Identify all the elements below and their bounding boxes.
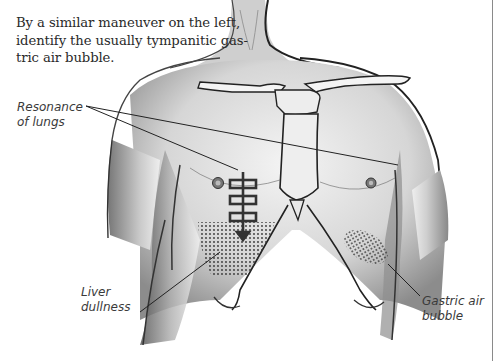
label-lungs-line-2: of lungs [17,115,83,130]
label-liver-dullness: Liver dullness [81,285,130,315]
liver-dullness-area [198,222,275,276]
label-lungs-line-1: Resonance [17,100,83,115]
caption-line-1: By a similar maneuver on the left, [16,14,266,32]
label-gastric-line-1: Gastric air [422,294,484,309]
textbook-page: By a similar maneuver on the left, ident… [0,0,497,361]
sternum-body [280,114,318,200]
caption-line-3: tric air bubble. [16,49,266,67]
label-resonance-of-lungs: Resonance of lungs [17,100,83,130]
label-liver-line-1: Liver [81,285,130,300]
label-gastric-line-2: bubble [422,309,484,324]
sternum-manubrium [275,90,320,115]
label-liver-line-2: dullness [81,300,130,315]
page-border-rule [492,0,493,361]
label-gastric-air-bubble: Gastric air bubble [422,294,484,324]
caption-text: By a similar maneuver on the left, ident… [16,14,266,67]
caption-line-2: identify the usually tympanitic gas- [16,32,266,50]
